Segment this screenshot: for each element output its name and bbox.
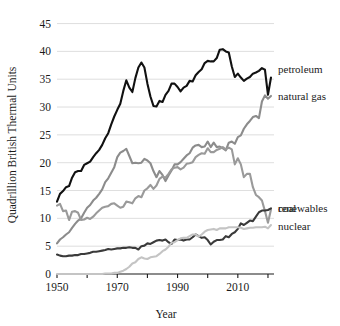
y-tick-label: 25	[40, 129, 52, 141]
series-label-natural-gas: natural gas	[278, 90, 326, 102]
y-tick-label: 10	[40, 212, 52, 224]
x-tick-label: 1950	[46, 281, 69, 293]
y-tick-label: 0	[45, 268, 51, 280]
x-tick-label: 1990	[166, 281, 189, 293]
series-label-petroleum: petroleum	[278, 63, 323, 75]
y-tick-label: 30	[40, 101, 52, 113]
y-tick-label: 40	[40, 45, 52, 57]
y-tick-label: 45	[40, 18, 52, 30]
series-labels-group: petroleumnatural gascoalrenewablesnuclea…	[278, 63, 327, 232]
series-line-coal	[57, 147, 271, 223]
y-tick-label: 5	[45, 240, 51, 252]
x-tick-label: 2010	[226, 281, 249, 293]
series-line-renewables	[57, 208, 271, 256]
y-tick-label: 20	[40, 157, 52, 169]
chart-canvas: 051015202530354045 1950197019902010 petr…	[0, 0, 340, 326]
y-tick-label: 35	[40, 73, 52, 85]
data-series-group	[57, 49, 271, 274]
series-label-renewables: renewables	[278, 202, 327, 214]
y-tick-labels-group: 051015202530354045	[40, 18, 52, 280]
x-tick-labels-group: 1950197019902010	[46, 281, 250, 293]
series-line-nuclear	[57, 225, 271, 274]
series-line-natural-gas	[57, 95, 271, 243]
y-axis-title: Quadrillion British Thermal Units	[6, 66, 18, 223]
series-label-nuclear: nuclear	[278, 220, 311, 232]
y-tick-label: 15	[40, 185, 52, 197]
x-tick-label: 1970	[106, 281, 129, 293]
x-axis-title: Year	[155, 308, 176, 320]
energy-consumption-chart: 051015202530354045 1950197019902010 petr…	[0, 0, 340, 326]
